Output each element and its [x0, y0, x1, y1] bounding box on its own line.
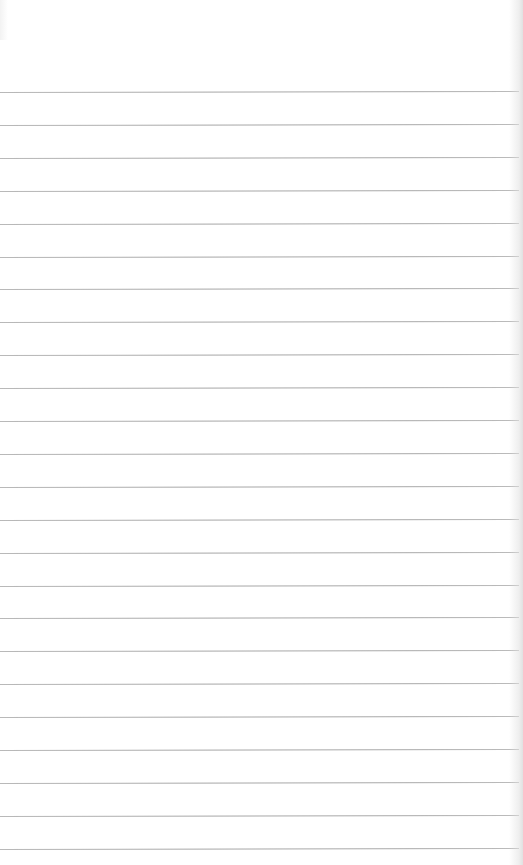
ruled-line	[0, 256, 519, 258]
paper-edge-shadow	[509, 0, 523, 865]
ruled-line	[0, 354, 519, 356]
ruled-line	[0, 848, 519, 850]
ruled-line	[0, 650, 519, 652]
ruled-line	[0, 453, 519, 455]
ruled-line	[0, 815, 519, 817]
ruled-line	[0, 585, 519, 587]
ruled-line	[0, 420, 519, 422]
ruled-line	[0, 190, 519, 192]
ruled-line	[0, 749, 519, 751]
ruled-line	[0, 552, 519, 554]
ruled-line	[0, 683, 519, 685]
ruled-line	[0, 91, 519, 93]
lined-paper-sheet	[0, 0, 523, 865]
ruled-line	[0, 321, 519, 323]
ruled-line	[0, 387, 519, 389]
ruled-line	[0, 288, 519, 290]
ruled-line	[0, 124, 519, 126]
paper-corner-shadow	[0, 0, 8, 40]
ruled-line	[0, 782, 519, 784]
ruled-line	[0, 486, 519, 488]
ruled-line	[0, 617, 519, 619]
ruled-line	[0, 223, 519, 225]
ruled-line	[0, 157, 519, 159]
ruled-line	[0, 519, 519, 521]
ruled-line	[0, 716, 519, 718]
